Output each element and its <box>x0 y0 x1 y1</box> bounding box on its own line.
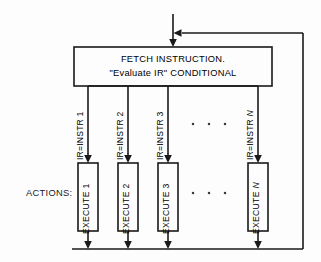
branch-arrowhead-2 <box>124 155 132 163</box>
branch-arrowhead-1 <box>84 155 92 163</box>
ellipsis-dot-lower-3 <box>224 192 227 195</box>
flowchart-diagram: FETCH INSTRUCTION. "Evaluate IR" CONDITI… <box>0 0 321 262</box>
entry-arrowhead <box>169 39 177 47</box>
execute-label-3: EXECUTE 3 <box>161 184 171 234</box>
exit-arrowhead-n <box>254 241 262 249</box>
ellipsis-dot-upper-2 <box>208 123 211 126</box>
branch-arrowhead-n <box>254 155 262 163</box>
execute-label-n-index: N <box>251 182 261 189</box>
branch-condition-label-3: IR=INSTR 3 <box>155 111 165 160</box>
execute-label-n-prefix: EXECUTE <box>251 189 261 234</box>
ellipsis-dot-lower-1 <box>192 192 195 195</box>
fetch-line-2: "Evaluate IR" CONDITIONAL <box>74 67 272 81</box>
execute-label-n: EXECUTE N <box>251 182 261 234</box>
branch-condition-label-n-prefix: IR=INSTR <box>245 116 255 160</box>
exit-arrowhead-3 <box>164 241 172 249</box>
actions-label: ACTIONS: <box>26 188 72 198</box>
fetch-instruction-text: FETCH INSTRUCTION. "Evaluate IR" CONDITI… <box>74 53 272 80</box>
fetch-line-1: FETCH INSTRUCTION. <box>74 53 272 67</box>
execute-label-1: EXECUTE 1 <box>81 184 91 234</box>
branch-condition-label-2: IR=INSTR 2 <box>115 111 125 160</box>
ellipsis-dot-lower-2 <box>208 192 211 195</box>
ellipsis-dot-upper-1 <box>192 123 195 126</box>
exit-arrowhead-2 <box>124 241 132 249</box>
branch-arrowhead-3 <box>164 155 172 163</box>
branch-condition-label-n-index: N <box>245 110 255 116</box>
execute-label-2: EXECUTE 2 <box>121 184 131 234</box>
exit-arrowhead-1 <box>84 241 92 249</box>
ellipsis-dot-upper-3 <box>224 123 227 126</box>
branch-condition-label-1: IR=INSTR 1 <box>75 111 85 160</box>
branch-condition-label-n: IR=INSTR N <box>245 110 255 160</box>
feedback-arrowhead <box>174 29 182 37</box>
